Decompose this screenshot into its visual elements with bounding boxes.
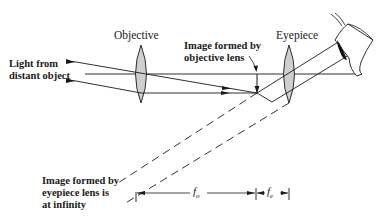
fo-subscript: o	[196, 192, 200, 200]
fe-subscript: e	[270, 192, 273, 200]
virtual-ray-lower-dashed	[124, 103, 289, 204]
objective-image-leader	[249, 56, 258, 72]
objective-image-label-line1: Image formed by	[184, 40, 261, 52]
focal-length-fe-label: fe	[267, 186, 273, 203]
eyepiece-image-label-line1: Image formed by	[42, 175, 119, 187]
objective-image-label-line2: objective lens	[184, 52, 244, 64]
intermediate-image-arrow	[255, 74, 260, 93]
focal-length-fo-label: fo	[193, 186, 200, 203]
observer-eye-icon	[331, 13, 373, 76]
eyepiece-image-label-line3: at infinity	[42, 199, 86, 211]
objective-label: Objective	[114, 30, 159, 42]
light-source-label-line2: distant object	[9, 70, 70, 82]
eyepiece-image-label-line2: eyepiece lens is	[42, 187, 109, 199]
light-source-label-line1: Light from	[9, 58, 58, 70]
outgoing-ray-upper	[257, 41, 340, 93]
incoming-ray-upper	[66, 59, 257, 93]
telescope-diagram: Objective Eyepiece Light from distant ob…	[0, 0, 380, 223]
eyepiece-label: Eyepiece	[276, 30, 318, 42]
virtual-ray-upper-dashed	[118, 93, 257, 183]
incoming-ray-lower	[66, 78, 257, 95]
ray-segment	[257, 93, 272, 102]
